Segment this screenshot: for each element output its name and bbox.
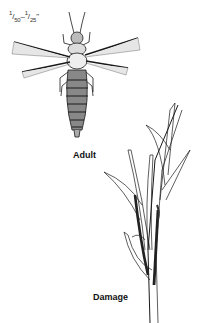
antenna-left: [69, 12, 74, 33]
insect-abdomen: [67, 70, 88, 130]
caption-damage: Damage: [93, 292, 128, 302]
plant-illustration: [104, 103, 190, 323]
leg-front-left: [63, 34, 71, 45]
insect-head: [71, 32, 83, 44]
insect-tail: [74, 130, 80, 137]
stem-right-edge: [156, 110, 182, 323]
leg-front-right: [83, 32, 90, 45]
damage-streak-2: [154, 210, 158, 285]
illustration-canvas: [0, 0, 197, 323]
caption-adult: Adult: [73, 150, 96, 160]
wing-lower-right: [86, 61, 128, 75]
leaf-tendril: [132, 235, 145, 240]
insect-thorax: [67, 53, 87, 69]
main-stem: [148, 105, 178, 323]
wing-upper-right: [85, 38, 140, 57]
antenna-right: [80, 12, 85, 33]
wing-upper-left: [12, 42, 70, 58]
insect-illustration: [12, 12, 140, 137]
